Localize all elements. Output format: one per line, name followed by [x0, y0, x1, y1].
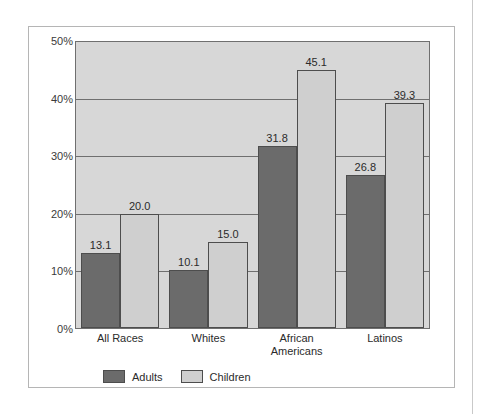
legend-label-children: Children [210, 371, 251, 383]
x-axis: All RacesWhitesAfricanAmericansLatinos [76, 332, 429, 366]
bar-group: 10.115.0 [169, 42, 247, 328]
y-tick-label-0: 0% [31, 323, 73, 335]
bar-adults-whites: 10.1 [169, 270, 208, 328]
y-tick-label-50: 50% [31, 35, 73, 47]
bar-children-whites: 15.0 [208, 242, 247, 328]
legend-label-adults: Adults [132, 371, 163, 383]
chart-legend: Adults Children [103, 370, 251, 383]
x-tick-label-all-races: All Races [76, 332, 164, 345]
y-axis: 50% 40% 30% 20% 10% 0% [29, 41, 73, 329]
bar-children-all-races: 20.0 [120, 214, 159, 328]
bar-adults-all-races: 13.1 [81, 253, 120, 328]
bar-adults-african-americans: 31.8 [258, 146, 297, 328]
figure-frame: 50% 40% 30% 20% 10% 0% 13.120.010.115.03… [28, 26, 455, 388]
bar-group: 26.839.3 [346, 42, 424, 328]
x-tick-label-african-americans: AfricanAmericans [253, 332, 341, 358]
legend-item-adults: Adults [103, 370, 163, 383]
y-tick-label-40: 40% [31, 93, 73, 105]
legend-swatch-adults-icon [103, 370, 125, 383]
legend-item-children: Children [181, 370, 251, 383]
bar-adults-latinos: 26.8 [346, 175, 385, 328]
bar-children-african-americans: 45.1 [297, 70, 336, 328]
bar-value-label: 31.8 [266, 132, 287, 144]
bar-group: 31.845.1 [258, 42, 336, 328]
bar-value-label: 39.3 [394, 89, 415, 101]
bar-chart: 50% 40% 30% 20% 10% 0% 13.120.010.115.03… [29, 27, 456, 389]
bar-value-label: 20.0 [129, 200, 150, 212]
x-tick-label-whites: Whites [164, 332, 252, 345]
bar-value-label: 13.1 [90, 239, 111, 251]
bar-value-label: 26.8 [355, 161, 376, 173]
bar-value-label: 15.0 [217, 228, 238, 240]
bar-value-label: 45.1 [305, 56, 326, 68]
y-tick-label-20: 20% [31, 208, 73, 220]
page-edge-artifact [472, 0, 473, 414]
legend-swatch-children-icon [181, 370, 203, 383]
y-tick-label-30: 30% [31, 150, 73, 162]
bars-layer: 13.120.010.115.031.845.126.839.3 [76, 42, 429, 328]
y-tick-label-10: 10% [31, 265, 73, 277]
bar-group: 13.120.0 [81, 42, 159, 328]
bar-value-label: 10.1 [178, 256, 199, 268]
bar-children-latinos: 39.3 [385, 103, 424, 328]
x-tick-label-latinos: Latinos [341, 332, 429, 345]
